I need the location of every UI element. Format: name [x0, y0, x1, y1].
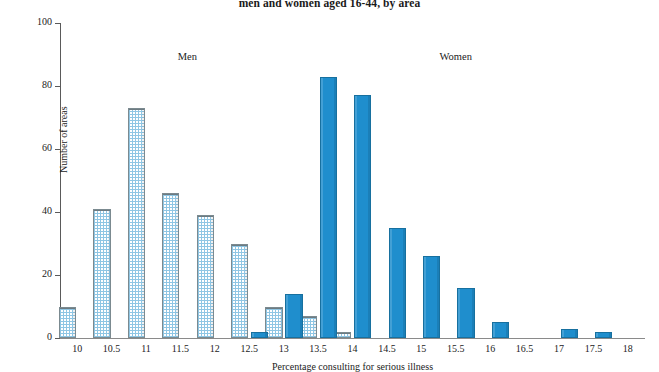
y-tick-label: 60 [24, 142, 52, 153]
x-tick-label: 15 [416, 343, 426, 354]
x-tick-label: 13 [279, 343, 289, 354]
bar-women-17.5 [595, 332, 612, 338]
x-tick-label: 11.5 [172, 343, 189, 354]
bar-women-15 [423, 256, 440, 338]
x-tick-label: 16 [485, 343, 495, 354]
bar-women-16 [492, 322, 509, 338]
series-annotation-men: Men [178, 51, 197, 62]
x-tick-label: 12.5 [241, 343, 259, 354]
y-axis-line [60, 23, 61, 339]
y-tick-mark [55, 86, 60, 87]
x-tick-label: 17 [554, 343, 564, 354]
y-tick-label: 80 [24, 79, 52, 90]
y-tick-mark [55, 23, 60, 24]
bar-men-10 [59, 307, 76, 339]
x-tick-label: 15.5 [447, 343, 465, 354]
x-tick-label: 14.5 [378, 343, 396, 354]
x-axis-line [60, 338, 645, 339]
bar-women-14.5 [389, 228, 406, 338]
y-tick-mark [55, 275, 60, 276]
x-tick-label: 11 [141, 343, 151, 354]
bar-men-12.5 [231, 244, 248, 339]
bar-men-11.5 [162, 193, 179, 338]
x-tick-label: 16.5 [516, 343, 534, 354]
y-axis-label: Number of areas [58, 106, 69, 173]
bar-men-10.5 [93, 209, 110, 338]
bar-women-12.5 [251, 332, 268, 338]
x-tick-label: 13.5 [309, 343, 327, 354]
bar-men-11 [128, 108, 145, 338]
bar-women-15.5 [457, 288, 474, 338]
chart-title: men and women aged 16-44, by area [0, 0, 659, 10]
y-tick-label: 0 [24, 331, 52, 342]
x-tick-label: 10 [72, 343, 82, 354]
bar-women-13.5 [320, 77, 337, 338]
y-tick-label: 100 [24, 16, 52, 27]
x-tick-label: 14 [348, 343, 358, 354]
x-tick-label: 17.5 [585, 343, 603, 354]
x-tick-label: 10.5 [103, 343, 121, 354]
y-tick-mark [55, 338, 60, 339]
x-tick-label: 18 [623, 343, 633, 354]
bar-men-12 [197, 215, 214, 338]
y-tick-label: 40 [24, 205, 52, 216]
bar-women-17 [561, 329, 578, 338]
plot-area: 020406080100 1010.51111.51212.51313.5141… [60, 23, 645, 338]
x-tick-label: 12 [210, 343, 220, 354]
bar-women-14 [354, 95, 371, 338]
bar-women-13 [285, 294, 302, 338]
series-annotation-women: Women [440, 51, 472, 62]
y-tick-mark [55, 212, 60, 213]
x-axis-label: Percentage consulting for serious illnes… [60, 361, 645, 372]
y-tick-label: 20 [24, 268, 52, 279]
